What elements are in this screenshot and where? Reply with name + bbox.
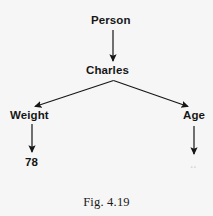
edge-charles-to-weight <box>35 81 114 107</box>
figure-container: Person Charles Weight Age 78 .. Fig. 4.1… <box>0 0 213 216</box>
node-weight: Weight <box>10 109 49 122</box>
figure-caption: Fig. 4.19 <box>0 195 213 210</box>
node-person: Person <box>91 14 131 27</box>
edge-charles-to-age <box>114 81 189 107</box>
node-age-value: .. <box>189 157 198 187</box>
edge-layer <box>0 0 213 216</box>
node-charles: Charles <box>86 64 129 77</box>
node-age: Age <box>183 109 205 122</box>
node-weight-value: 78 <box>25 156 38 169</box>
